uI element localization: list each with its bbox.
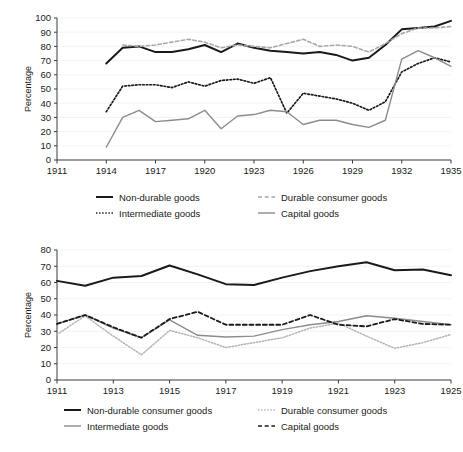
legend-group: Non-durable goodsDurable consumer goodsI… xyxy=(96,192,387,219)
bottom-chart-svg: 0102030405060708019111913191519171919192… xyxy=(0,228,463,452)
y-tick-label: 100 xyxy=(35,12,51,23)
legend-label-2: Durable consumer goods xyxy=(281,192,387,203)
y-tick-label: 50 xyxy=(40,83,51,94)
y-tick-label: 0 xyxy=(46,374,51,385)
x-tick-label: 1935 xyxy=(440,165,461,176)
y-tick-label: 80 xyxy=(40,244,51,255)
x-tick-label: 1929 xyxy=(342,165,363,176)
x-tick-label: 1926 xyxy=(293,165,314,176)
legend-group: Non-durable consumer goodsDurable consum… xyxy=(64,405,387,432)
gridlines-group xyxy=(57,18,451,146)
top-chart-panel: 0102030405060708090100191119141917192019… xyxy=(0,0,463,228)
x-tick-label: 1917 xyxy=(145,165,166,176)
x-tick-label: 1914 xyxy=(96,165,117,176)
y-tick-label: 30 xyxy=(40,326,51,337)
two-panel-line-chart-figure: 0102030405060708090100191119141917192019… xyxy=(0,0,463,452)
y-tick-label: 90 xyxy=(40,27,51,38)
y-tick-label: 10 xyxy=(40,140,51,151)
y-axis-title: Percentage xyxy=(23,292,33,338)
legend-label-4: Capital goods xyxy=(281,208,339,219)
y-tick-label: 70 xyxy=(40,55,51,66)
legend-label-3: Intermediate goods xyxy=(87,421,169,432)
series-group xyxy=(57,262,451,355)
x-tick-label: 1920 xyxy=(194,165,215,176)
y-axis-title: Percentage xyxy=(23,66,33,112)
legend-label-1: Non-durable goods xyxy=(119,192,200,203)
x-tick-label: 1932 xyxy=(391,165,412,176)
legend-label-4: Capital goods xyxy=(281,421,339,432)
y-tick-label: 60 xyxy=(40,69,51,80)
y-tick-label: 20 xyxy=(40,342,51,353)
y-tick-label: 0 xyxy=(46,154,51,165)
x-tick-label: 1913 xyxy=(103,385,124,396)
y-tick-label: 30 xyxy=(40,112,51,123)
legend-label-3: Intermediate goods xyxy=(119,208,201,219)
y-tick-label: 50 xyxy=(40,293,51,304)
x-tick-label: 1923 xyxy=(384,385,405,396)
x-tick-label: 1915 xyxy=(159,385,180,396)
y-tick-label: 80 xyxy=(40,41,51,52)
x-tick-label: 1921 xyxy=(328,385,349,396)
x-tick-label: 1923 xyxy=(243,165,264,176)
y-tick-label: 60 xyxy=(40,277,51,288)
x-tick-label: 1919 xyxy=(272,385,293,396)
legend-label-1: Non-durable consumer goods xyxy=(87,405,212,416)
series-line-capital-goods xyxy=(106,51,451,148)
x-axis-ticks: 19111913191519171919192119231925 xyxy=(47,380,462,396)
x-tick-label: 1911 xyxy=(47,165,67,176)
x-tick-label: 1925 xyxy=(440,385,461,396)
series-line-capital-goods xyxy=(57,312,451,338)
bottom-chart-panel: 0102030405060708019111913191519171919192… xyxy=(0,228,463,452)
series-line-non-durable-goods xyxy=(106,21,451,64)
x-tick-label: 1911 xyxy=(47,385,67,396)
y-tick-label: 70 xyxy=(40,261,51,272)
legend-label-2: Durable consumer goods xyxy=(281,405,387,416)
y-axis-ticks: 0102030405060708090100 xyxy=(35,12,57,165)
series-group xyxy=(106,21,451,147)
series-line-durable-consumer-goods xyxy=(57,316,451,355)
y-tick-label: 20 xyxy=(40,126,51,137)
y-tick-label: 10 xyxy=(40,358,51,369)
top-chart-svg: 0102030405060708090100191119141917192019… xyxy=(0,0,463,228)
x-axis-ticks: 191119141917192019231926192919321935 xyxy=(47,160,462,176)
y-tick-label: 40 xyxy=(40,309,51,320)
y-axis-ticks: 01020304050607080 xyxy=(40,244,57,385)
x-tick-label: 1917 xyxy=(215,385,236,396)
series-line-intermediate-goods xyxy=(57,315,451,338)
y-tick-label: 40 xyxy=(40,98,51,109)
